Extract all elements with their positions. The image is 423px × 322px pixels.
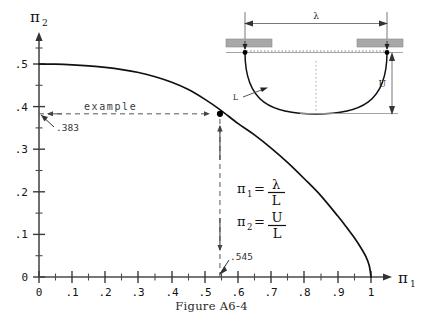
inset-cable-leader-arrowhead	[260, 88, 268, 93]
inset-anchor-point-right	[385, 50, 390, 55]
inset-diagram: λ U	[226, 11, 403, 115]
y-tick-label: .1	[15, 228, 28, 241]
inset-anchor-point-left	[243, 50, 248, 55]
example-label: example	[84, 101, 137, 112]
x-value-label: .545	[230, 251, 253, 262]
x-tick-label: .1	[65, 286, 78, 299]
x-tick-label: .6	[231, 286, 244, 299]
x-axis-tick-labels: 0 .1 .2 .3 .4 .5 .6 .7 .8 .9 1	[36, 286, 375, 299]
x-axis-title: π 1	[398, 269, 416, 289]
x-axis-title-subscript: 1	[410, 279, 416, 289]
y-value-annotation: .383	[41, 115, 79, 133]
figure-svg: 0 .1 .2 .3 .4 .5 .6 .7 .8 .9 1 0 .1 .2 .…	[0, 0, 423, 322]
formula-pi1-equals: =	[254, 181, 265, 196]
inset-sag-arrow-up	[389, 52, 395, 61]
formula-pi1-numerator: λ	[272, 177, 280, 192]
figure-container: 0 .1 .2 .3 .4 .5 .6 .7 .8 .9 1 0 .1 .2 .…	[0, 0, 423, 322]
figure-caption: Figure A6-4	[0, 299, 423, 313]
y-tick-label: .2	[15, 186, 28, 199]
data-curve	[39, 64, 371, 277]
formula-pi2: π 2 = U L	[237, 210, 286, 241]
example-data-point	[217, 111, 223, 117]
formula-pi2-denominator: L	[273, 226, 282, 241]
formula-pi1-symbol: π	[237, 181, 246, 196]
axes	[35, 32, 392, 281]
y-axis-arrowhead	[35, 32, 42, 41]
y-tick-label: .4	[15, 101, 29, 114]
x-tick-label: .7	[264, 286, 277, 299]
x-axis-title-symbol: π	[398, 269, 408, 287]
y-axis-title: π 2	[30, 8, 48, 28]
x-tick-label: .8	[297, 286, 310, 299]
formula-pi1-subscript: 1	[247, 189, 252, 199]
x-tick-label: .5	[198, 286, 211, 299]
formula-pi2-numerator: U	[272, 210, 283, 225]
formula-pi1-denominator: L	[272, 193, 281, 208]
y-axis-title-symbol: π	[30, 8, 40, 26]
x-axis-arrowhead	[383, 273, 392, 280]
x-tick-label: .4	[165, 286, 179, 299]
inset-span-label: λ	[313, 11, 319, 21]
x-tick-label: .2	[98, 286, 111, 299]
inset-cable-label: L	[233, 93, 238, 102]
formula-pi1: π 1 = λ L	[237, 177, 285, 208]
y-tick-label: 0	[21, 271, 28, 284]
x-tick-label: .3	[131, 286, 144, 299]
y-axis-title-subscript: 2	[42, 18, 48, 28]
x-tick-label: .9	[331, 286, 344, 299]
formula-pi2-symbol: π	[237, 214, 246, 229]
y-axis-tick-labels: 0 .1 .2 .3 .4 .5	[15, 58, 29, 284]
y-tick-label: .5	[15, 58, 28, 71]
formula-pi2-equals: =	[254, 214, 265, 229]
example-guides	[39, 114, 220, 277]
x-tick-label: 1	[368, 286, 375, 299]
inset-support-right	[357, 39, 403, 47]
y-value-label: .383	[56, 122, 79, 133]
y-tick-label: .3	[15, 143, 28, 156]
inset-sag-label: U	[378, 79, 386, 89]
inset-support-left	[226, 39, 272, 47]
x-value-annotation: .545	[219, 251, 253, 275]
x-tick-label: 0	[36, 286, 43, 299]
formula-pi2-subscript: 2	[247, 222, 252, 232]
